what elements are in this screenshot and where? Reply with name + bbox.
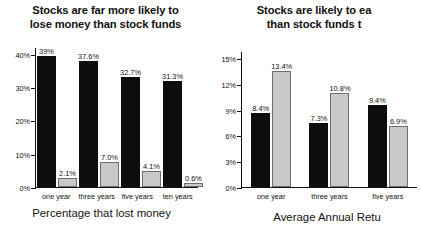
bar-value-label: 6.9%: [390, 117, 407, 126]
chart-title-left: Stocks are far more likely to lose money…: [8, 4, 203, 31]
category-label: three years: [77, 192, 118, 201]
y-tick-label: 6%: [225, 132, 236, 141]
category-labels-right: one yearthree yearsfive years: [242, 192, 417, 201]
bar-value-label: 37.6%: [78, 52, 99, 61]
category-label: ten years: [158, 192, 199, 201]
y-tick-label: 0%: [225, 184, 236, 193]
bar-value-label: 2.1%: [59, 169, 76, 178]
y-tick-mark: [31, 188, 36, 189]
bar-value-label: 13.4%: [271, 62, 292, 71]
bar-value-label: 10.8%: [330, 84, 351, 93]
bar-value-label: 39%: [39, 47, 54, 56]
y-tick-label: 15%: [221, 54, 236, 63]
bar-groups-right: 8.4%13.4%7.3%10.8%9.4%6.9%: [242, 52, 417, 187]
bar-group: 7.3%10.8%: [300, 52, 358, 187]
bar-group: 8.4%13.4%: [242, 52, 300, 187]
bar-groups-left: 39%2.1%37.6%7.0%32.7%4.1%31.3%0.6%: [36, 48, 198, 187]
bar-value-label: 32.7%: [120, 68, 141, 77]
bar-value-label: 8.4%: [252, 104, 269, 113]
chart-panel-left: Stocks are far more likely to lose money…: [0, 0, 203, 240]
bar-group: 37.6%7.0%: [78, 48, 120, 187]
y-tick-label: 30%: [15, 84, 30, 93]
bar-stock-funds: 7.0%: [100, 162, 119, 187]
bar-stocks: 32.7%: [121, 77, 140, 187]
y-tick-mark: [237, 188, 242, 189]
bar-stock-funds: 0.6%: [184, 183, 203, 187]
chart-title-right: Stocks are likely to ea than stock funds…: [203, 4, 421, 31]
bar-stocks: 9.4%: [368, 105, 387, 187]
chart-panel-right: Stocks are likely to ea than stock funds…: [203, 0, 389, 240]
bar-value-label: 7.0%: [101, 153, 118, 162]
bar-stocks: 37.6%: [79, 61, 98, 187]
bar-stocks: 7.3%: [309, 123, 328, 187]
bar-group: 32.7%4.1%: [120, 48, 162, 187]
y-tick-label: 20%: [15, 117, 30, 126]
plot-area-right: 0%3%6%9%12%15% 8.4%13.4%7.3%10.8%9.4%6.9…: [241, 52, 417, 188]
bar-stocks: 39%: [37, 56, 56, 187]
bar-stock-funds: 6.9%: [389, 126, 408, 187]
bar-group: 9.4%6.9%: [359, 52, 417, 187]
category-labels-left: one yearthree yearsfive yearsten years: [36, 192, 198, 201]
x-axis-line-right: [241, 187, 417, 188]
y-tick-label: 3%: [225, 158, 236, 167]
y-tick-label: 12%: [221, 80, 236, 89]
bar-stock-funds: 4.1%: [142, 171, 161, 187]
y-tick-label: 40%: [15, 50, 30, 59]
y-tick-label: 0%: [19, 184, 30, 193]
bar-group: 31.3%0.6%: [162, 48, 204, 187]
bar-value-label: 4.1%: [143, 162, 160, 171]
bar-group: 39%2.1%: [36, 48, 78, 187]
chart-caption-right: Average Annual Retu: [211, 211, 421, 223]
bar-stocks: 8.4%: [251, 113, 270, 187]
category-label: three years: [300, 192, 358, 201]
bar-stock-funds: 13.4%: [272, 71, 291, 187]
bar-value-label: 7.3%: [311, 114, 328, 123]
category-label: five years: [117, 192, 158, 201]
category-label: five years: [359, 192, 417, 201]
bar-value-label: 9.4%: [369, 96, 386, 105]
chart-caption-left: Percentage that lost money: [0, 207, 203, 219]
bar-value-label: 31.3%: [162, 72, 183, 81]
category-label: one year: [242, 192, 300, 201]
y-tick-label: 9%: [225, 106, 236, 115]
bar-stock-funds: 10.8%: [330, 93, 349, 187]
bar-value-label: 0.6%: [185, 174, 202, 183]
x-axis-line-left: [35, 187, 198, 188]
y-tick-label: 10%: [15, 150, 30, 159]
category-label: one year: [36, 192, 77, 201]
bar-stocks: 31.3%: [163, 81, 182, 187]
plot-area-left: 0%10%20%30%40% 39%2.1%37.6%7.0%32.7%4.1%…: [35, 48, 198, 188]
bar-stock-funds: 2.1%: [58, 178, 77, 187]
